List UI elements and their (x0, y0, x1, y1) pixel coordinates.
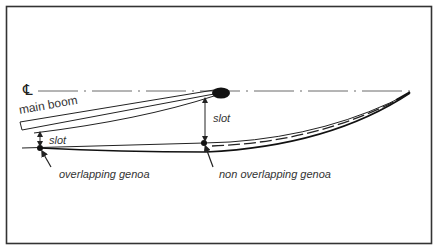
pointer-arrow-overlapping (43, 153, 51, 167)
overlapping-genoa-dot (37, 145, 43, 151)
overlapping-genoa-label: overlapping genoa (59, 169, 150, 180)
slot-label-right: slot (213, 113, 230, 124)
sail-slot-diagram (0, 0, 438, 249)
non-overlapping-genoa-dashed (212, 96, 405, 146)
slot-label-left: slot (49, 135, 66, 146)
centerline-symbol: ℄ (23, 83, 33, 98)
non-overlapping-genoa-dot (201, 140, 207, 146)
non-overlapping-genoa-label: non overlapping genoa (219, 169, 331, 180)
non-overlapping-genoa-line (204, 93, 410, 143)
frame-border (7, 7, 432, 244)
pointer-arrow-non-overlapping (206, 148, 213, 167)
mast-icon (212, 88, 230, 99)
genoa-tip-line (396, 92, 410, 100)
